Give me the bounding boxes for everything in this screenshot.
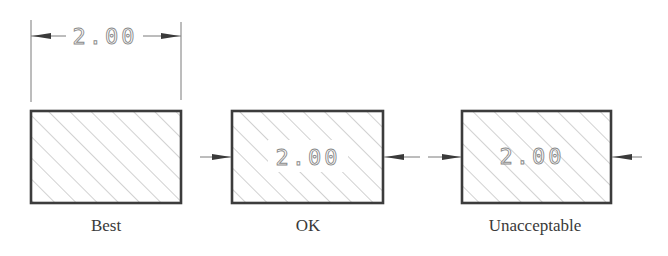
caption-best: Best	[91, 216, 122, 235]
arrowhead-left-icon	[32, 33, 51, 39]
dimension-value: 2.00	[500, 144, 565, 169]
hatch-fill	[31, 111, 181, 203]
arrowhead-right-icon	[161, 33, 180, 39]
panel-best: 2.00 Best	[31, 20, 181, 235]
dimension-value: 2.00	[73, 24, 138, 49]
dimension-value: 2.00	[276, 145, 341, 170]
arrowhead-right-icon	[613, 154, 632, 160]
caption-ok: OK	[296, 216, 321, 235]
caption-unacceptable: Unacceptable	[489, 216, 582, 235]
arrowhead-right-icon	[385, 154, 404, 160]
dimension-placement-diagram: 2.00 Best 2.00 OK 2.00 Unacceptable	[0, 0, 668, 256]
panel-unacceptable: 2.00 Unacceptable	[428, 111, 642, 235]
arrowhead-left-icon	[212, 154, 231, 160]
panel-ok: 2.00 OK	[200, 111, 420, 235]
arrowhead-left-icon	[442, 154, 461, 160]
